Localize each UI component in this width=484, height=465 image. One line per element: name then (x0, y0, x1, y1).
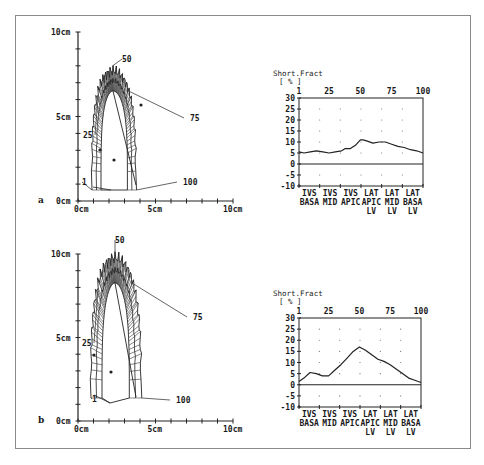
grid-dot (339, 362, 340, 363)
region-label: LV (387, 207, 397, 216)
y-tick-label: 30 (285, 94, 295, 103)
region-label: BASA (300, 419, 319, 428)
y-label-5cm: 5cm (56, 334, 71, 343)
grid-dot (340, 141, 341, 142)
grid-dot (400, 362, 401, 363)
grid-dot (359, 395, 360, 396)
grid-dot (319, 152, 320, 153)
contour-plot-b: 10cm5cm0cm0cm5cm10cmb1255075100 (38, 236, 242, 434)
segment-label-50: 50 (115, 236, 125, 245)
region-label: IVS (323, 189, 338, 198)
grid-dot (319, 174, 320, 175)
y-tick-label: 15 (285, 127, 295, 136)
x-tick-label: 25 (324, 87, 334, 96)
y-label-0cm: 0cm (56, 197, 71, 206)
marker-dot (98, 148, 101, 151)
grid-dot (340, 119, 341, 120)
grid-dot (380, 351, 381, 352)
grid-dot (360, 141, 361, 142)
grid-dot (360, 108, 361, 109)
grid-dot (319, 395, 320, 396)
segment-label-1: 1 (92, 395, 97, 404)
grid-dot (381, 119, 382, 120)
grid-dot (339, 395, 340, 396)
marker-dot (112, 158, 115, 161)
marker-dot (139, 103, 142, 106)
x-label-5cm: 5cm (148, 425, 163, 434)
y-tick-label: -10 (281, 182, 296, 191)
segment-label-100: 100 (183, 178, 198, 187)
region-label: LV (406, 428, 416, 437)
grid-dot (339, 351, 340, 352)
grid-dot (359, 351, 360, 352)
y-tick-label: 0 (290, 160, 295, 169)
segment-label-25: 25 (82, 339, 92, 348)
chart-unit: [ % ] (279, 297, 302, 306)
grid-dot (319, 108, 320, 109)
grid-dot (339, 329, 340, 330)
x-label-10cm: 10cm (223, 425, 242, 434)
grid-dot (319, 119, 320, 120)
grid-dot (360, 174, 361, 175)
region-label: MID (383, 419, 398, 428)
segment-marker-line (136, 182, 177, 190)
segment-label-75: 75 (190, 114, 200, 123)
x-tick-label: 1 (297, 87, 302, 96)
y-tick-label: 15 (285, 347, 295, 356)
grid-dot (339, 340, 340, 341)
grid-dot (339, 373, 340, 374)
grid-dot (402, 119, 403, 120)
region-label: LAT (404, 410, 419, 419)
region-label: LAT (385, 189, 400, 198)
grid-dot (360, 119, 361, 120)
y-tick-label: 30 (285, 314, 295, 323)
grid-dot (340, 174, 341, 175)
grid-dot (340, 130, 341, 131)
segment-label-75: 75 (193, 313, 203, 322)
grid-dot (319, 141, 320, 142)
x-label-0cm: 0cm (74, 425, 89, 434)
region-label: LAT (363, 410, 378, 419)
region-label: LV (386, 428, 396, 437)
grid-dot (402, 130, 403, 131)
grid-dot (359, 362, 360, 363)
segment-marker-line (113, 59, 122, 66)
y-tick-label: 10 (285, 138, 295, 147)
grid-dot (380, 329, 381, 330)
y-tick-label: 0 (290, 381, 295, 390)
grid-dot (400, 329, 401, 330)
x-tick-label: 50 (355, 307, 365, 316)
grid-dot (359, 340, 360, 341)
grid-dot (381, 130, 382, 131)
region-label: MID (323, 198, 338, 207)
grid-dot (400, 351, 401, 352)
region-label: BASA (300, 198, 319, 207)
grid-dot (380, 395, 381, 396)
region-label: IVS (302, 410, 317, 419)
y-label-0cm: 0cm (56, 417, 71, 426)
grid-dot (360, 152, 361, 153)
region-label: APIC (340, 419, 359, 428)
region-label: MID (385, 198, 400, 207)
x-label-0cm: 0cm (74, 205, 89, 214)
contour-plot-a: 10cm5cm0cm0cm5cm10cma1255075100 (38, 28, 242, 214)
base-line (102, 398, 129, 403)
segment-marker-line (134, 284, 187, 317)
region-label: APIC (361, 419, 380, 428)
grid-dot (340, 152, 341, 153)
region-label: IVS (343, 410, 358, 419)
x-label-10cm: 10cm (223, 205, 242, 214)
region-label: APIC (341, 198, 360, 207)
region-label: LAT (364, 189, 379, 198)
segment-label-1: 1 (82, 178, 87, 187)
grid-dot (340, 108, 341, 109)
region-label: IVS (302, 189, 317, 198)
sf-chart-b: Short.Fract[ % ]302520151050-5-101255075… (273, 289, 428, 437)
grid-dot (380, 340, 381, 341)
grid-dot (360, 130, 361, 131)
grid-dot (319, 329, 320, 330)
grid-dot (381, 152, 382, 153)
sf-chart-a: Short.Fract[ % ]302520151050-5-101255075… (273, 69, 430, 216)
figure-canvas: 10cm5cm0cm0cm5cm10cma1255075100Short.Fra… (0, 0, 484, 465)
region-label: LAT (405, 189, 420, 198)
